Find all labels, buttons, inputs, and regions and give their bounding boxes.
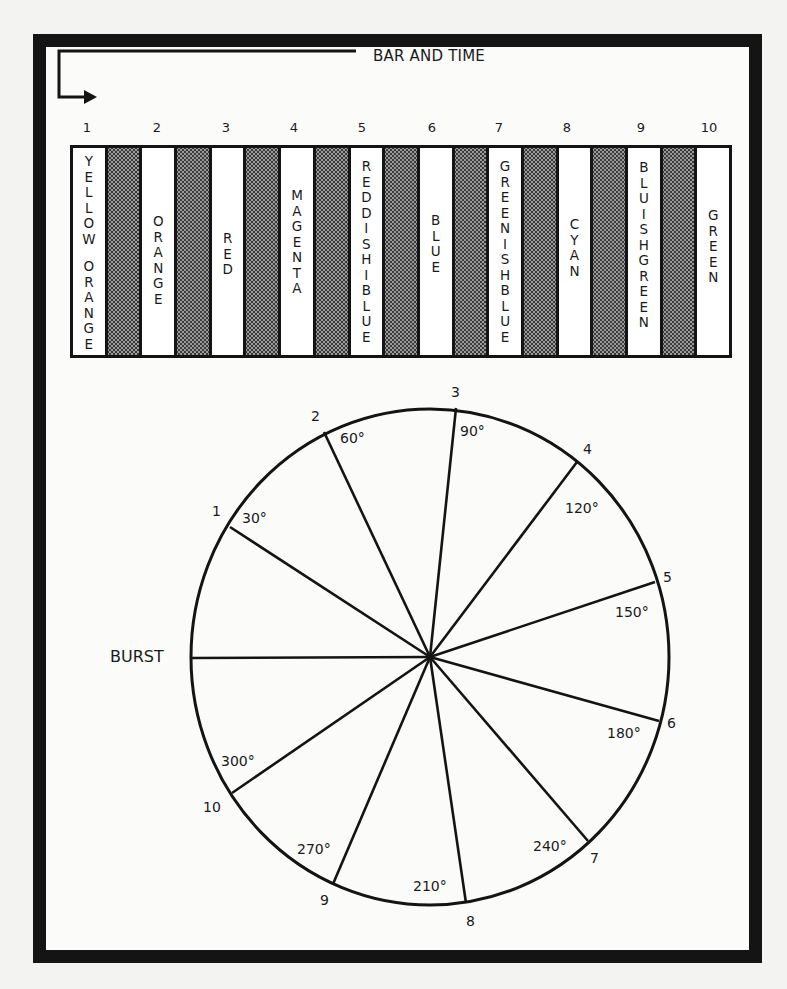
- angle-label: 210°: [413, 878, 447, 894]
- spoke-number: 1: [212, 503, 221, 519]
- spoke-number: 8: [466, 913, 475, 929]
- angle-label: 240°: [533, 838, 567, 854]
- angle-label: 60°: [340, 430, 365, 446]
- spoke-number: 10: [203, 799, 221, 815]
- spoke-number: 9: [320, 892, 329, 908]
- spoke-number: 2: [311, 408, 320, 424]
- spoke-number: 5: [663, 569, 672, 585]
- spoke-number: 4: [583, 441, 592, 457]
- spoke-number: 6: [667, 715, 676, 731]
- angle-label: 300°: [221, 753, 255, 769]
- angle-label: 150°: [615, 604, 649, 620]
- angle-label: 30°: [242, 510, 267, 526]
- spoke-number: 3: [451, 384, 460, 400]
- angle-label: 180°: [607, 725, 641, 741]
- angle-label: 270°: [297, 841, 331, 857]
- phase-wheel: 1 2 3 4 5 6 7 8 9 10 30° 60° 90° 120° 15…: [0, 0, 787, 989]
- burst-label: BURST: [110, 647, 164, 666]
- spoke-number: 7: [590, 850, 599, 866]
- angle-label: 90°: [460, 423, 485, 439]
- angle-label: 120°: [565, 500, 599, 516]
